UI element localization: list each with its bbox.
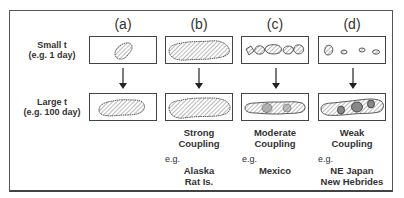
hatched-rupture-zone-icon xyxy=(166,94,234,122)
caption-c-line1: Moderate xyxy=(241,127,309,138)
down-arrow-icon-a xyxy=(118,68,128,90)
down-arrow-icon-c xyxy=(271,68,281,90)
caption-b-line2: Coupling xyxy=(165,138,233,149)
caption-weak-coupling: Weak Coupling xyxy=(312,127,392,149)
row-label-small-t-line2: (e.g. 1 day) xyxy=(14,50,90,60)
hatched-rupture-zone-icon xyxy=(166,37,234,65)
box-b-large-t xyxy=(165,93,233,121)
down-arrow-icon-d xyxy=(348,68,358,90)
column-label-d: (d) xyxy=(317,16,387,32)
example-b-line1: Alaska xyxy=(165,165,233,176)
caption-c-line2: Coupling xyxy=(241,138,309,149)
caption-strong-coupling: Strong Coupling xyxy=(165,127,233,149)
hatched-asperities-icon xyxy=(319,37,387,65)
caption-moderate-coupling: Moderate Coupling xyxy=(241,127,309,149)
row-label-large-t: Large t (e.g. 100 day) xyxy=(14,97,90,117)
box-d-small-t xyxy=(318,36,386,64)
hatched-zone-with-asperities-icon xyxy=(319,94,387,122)
box-d-large-t xyxy=(318,93,386,121)
example-c-line1: Mexico xyxy=(241,165,309,176)
down-arrow-icon-b xyxy=(194,68,204,90)
example-d-line1: NE Japan xyxy=(312,165,392,176)
box-b-small-t xyxy=(165,36,233,64)
example-c: Mexico xyxy=(241,165,309,176)
hatched-rupture-zone-icon xyxy=(90,37,158,65)
eg-b: e.g. xyxy=(165,154,180,164)
eg-c: e.g. xyxy=(242,154,257,164)
row-label-large-t-line1: Large t xyxy=(14,97,90,107)
box-a-small-t xyxy=(89,36,157,64)
column-label-b: (b) xyxy=(164,16,234,32)
example-b-line2: Rat Is. xyxy=(165,176,233,187)
caption-b-line1: Strong xyxy=(165,127,233,138)
box-c-large-t xyxy=(241,93,309,121)
caption-d-line1: Weak xyxy=(312,127,392,138)
eg-d: e.g. xyxy=(318,154,333,164)
row-label-large-t-line2: (e.g. 100 day) xyxy=(14,107,90,117)
hatched-merged-segments-icon xyxy=(242,94,310,122)
hatched-rupture-zone-icon xyxy=(90,94,158,122)
row-label-small-t-line1: Small t xyxy=(14,40,90,50)
box-a-large-t xyxy=(89,93,157,121)
column-label-a: (a) xyxy=(88,16,158,32)
box-c-small-t xyxy=(241,36,309,64)
column-label-c: (c) xyxy=(240,16,310,32)
caption-d-line2: Coupling xyxy=(312,138,392,149)
example-b: Alaska Rat Is. xyxy=(165,165,233,187)
example-d: NE Japan New Hebrides xyxy=(312,165,392,187)
hatched-segments-icon xyxy=(242,37,310,65)
example-d-line2: New Hebrides xyxy=(312,176,392,187)
row-label-small-t: Small t (e.g. 1 day) xyxy=(14,40,90,60)
